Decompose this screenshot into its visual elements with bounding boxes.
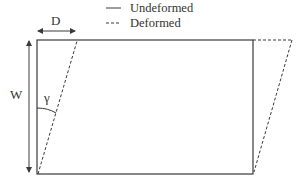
legend: Undeformed Deformed [106,1,194,30]
d-dimension: D [38,13,75,31]
shear-angle-arc [37,108,56,113]
w-dimension: W [10,41,29,172]
gamma-label: γ [43,90,50,105]
deformed-shape [38,40,292,174]
legend-deformed-label: Deformed [130,16,181,30]
deformed-left-edge [38,41,77,174]
deformed-right-edge [254,40,292,172]
shear-angle: γ [37,90,56,113]
d-label: D [51,13,60,28]
undeformed-rectangle [37,40,253,174]
shear-deformation-diagram: Undeformed Deformed D W γ [0,0,305,187]
w-label: W [10,87,23,102]
legend-undeformed-label: Undeformed [130,1,194,15]
